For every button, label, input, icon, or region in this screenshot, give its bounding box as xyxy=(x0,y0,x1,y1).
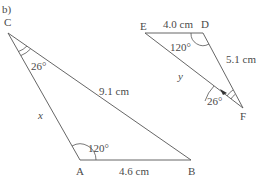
vertex-label-e: E xyxy=(140,20,147,32)
similar-triangles-diagram: b) C 26° 9.1 cm x 120° A 4.6 cm B xyxy=(0,0,259,177)
side-label-ab: 4.6 cm xyxy=(119,165,149,177)
side-label-ca: x xyxy=(37,109,43,121)
angle-label-f: 26° xyxy=(207,95,222,107)
side-ef xyxy=(145,33,243,108)
vertex-label-b: B xyxy=(188,165,195,177)
vertex-label-c: C xyxy=(4,16,11,28)
side-label-ef: y xyxy=(177,70,183,82)
angle-label-d: 120° xyxy=(170,41,191,53)
vertex-label-a: A xyxy=(76,165,84,177)
side-ca xyxy=(8,33,80,160)
part-label: b) xyxy=(2,3,12,16)
angle-arc-f-inner xyxy=(231,95,235,100)
angle-arc-c xyxy=(19,46,28,52)
side-label-ed: 4.0 cm xyxy=(163,18,193,30)
angle-arc-f xyxy=(227,90,233,96)
vertex-label-f: F xyxy=(240,110,246,122)
triangle-abc: C 26° 9.1 cm x 120° A 4.6 cm B xyxy=(4,16,195,177)
triangle-def: E 4.0 cm D 120° 5.1 cm y 26° F xyxy=(140,18,256,122)
side-label-cb: 9.1 cm xyxy=(99,85,129,97)
angle-label-a: 120° xyxy=(88,142,109,154)
vertex-label-d: D xyxy=(201,18,209,30)
side-label-df: 5.1 cm xyxy=(226,53,256,65)
angle-label-c: 26° xyxy=(31,60,46,72)
